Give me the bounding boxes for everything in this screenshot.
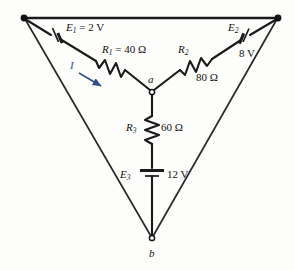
label-R2-value: 80 Ω bbox=[196, 72, 218, 83]
wire-branch-right-seg3 bbox=[154, 70, 180, 90]
label-E3-symbol: E bbox=[120, 168, 127, 180]
label-E2-symbol: E bbox=[228, 21, 235, 33]
wire-branch-left-seg3 bbox=[125, 70, 150, 90]
label-E2-subscript: 2 bbox=[235, 26, 239, 35]
label-current-I: I bbox=[70, 60, 74, 71]
label-E1: E1 = 2 V bbox=[66, 22, 104, 34]
label-E1-value: = 2 V bbox=[76, 21, 104, 33]
label-E3-value: 12 V bbox=[167, 169, 189, 180]
label-R3: R3 bbox=[126, 122, 136, 134]
label-E2-value: 8 V bbox=[239, 48, 255, 59]
wire-branch-right-seg2 bbox=[212, 40, 241, 59]
label-R1-value: = 40 Ω bbox=[112, 43, 146, 55]
label-E1-symbol: E bbox=[66, 21, 73, 33]
label-node-b: b bbox=[149, 248, 155, 259]
label-R1-symbol: R bbox=[102, 43, 109, 55]
label-R2-subscript: 2 bbox=[185, 48, 189, 57]
label-R1: R1 = 40 Ω bbox=[102, 44, 146, 56]
label-node-a: a bbox=[148, 74, 154, 85]
label-R2: R2 bbox=[178, 44, 188, 56]
wire-branch-left-seg2 bbox=[60, 39, 96, 61]
battery-symbol-E1 bbox=[53, 28, 63, 43]
label-E3-subscript: 3 bbox=[127, 173, 131, 182]
circuit-schematic-canvas bbox=[0, 0, 294, 270]
label-R2-symbol: R bbox=[178, 43, 185, 55]
resistor-symbol-R1 bbox=[96, 60, 125, 77]
label-R3-value: 60 Ω bbox=[161, 122, 183, 133]
label-R3-symbol: R bbox=[126, 121, 133, 133]
node-terminal-b bbox=[149, 235, 154, 240]
label-E3: E3 bbox=[120, 169, 130, 181]
junction-dot-top-right bbox=[275, 15, 282, 22]
node-terminal-a bbox=[149, 89, 154, 94]
circuit-diagram-figure: E1 = 2 V R1 = 40 Ω E2 8 V R2 80 Ω R3 60 … bbox=[0, 0, 294, 270]
current-arrow-I bbox=[79, 73, 101, 86]
label-R3-subscript: 3 bbox=[133, 126, 137, 135]
resistor-symbol-R3 bbox=[145, 116, 159, 144]
label-E2: E2 bbox=[228, 22, 238, 34]
junction-dot-top-left bbox=[21, 15, 28, 22]
